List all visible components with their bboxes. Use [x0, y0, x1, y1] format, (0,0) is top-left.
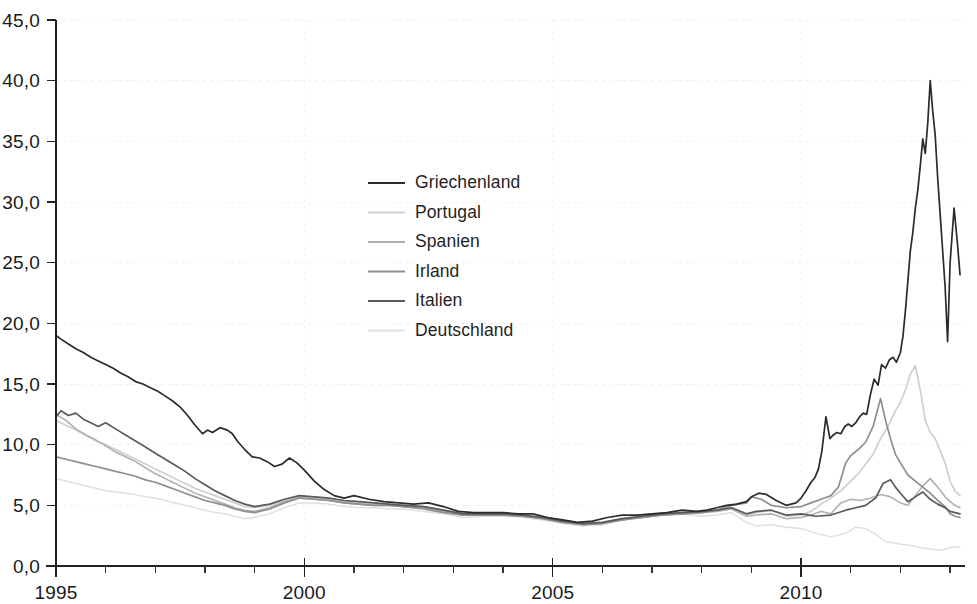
y-tick-label: 15,0	[2, 374, 40, 395]
y-tick-label: 25,0	[2, 252, 40, 273]
x-tick-label: 2010	[780, 582, 823, 603]
line-chart: 0,05,010,015,020,025,030,035,040,045,0 1…	[0, 0, 977, 604]
legend-label-deutschland: Deutschland	[415, 320, 513, 340]
legend-label-portugal: Portugal	[415, 202, 481, 222]
legend-label-griechenland: Griechenland	[415, 172, 520, 192]
y-tick-label: 20,0	[2, 313, 40, 334]
y-tick-label: 0,0	[13, 556, 40, 577]
x-tick-label: 1995	[34, 582, 77, 603]
y-tick-label: 30,0	[2, 192, 40, 213]
y-tick-label: 10,0	[2, 434, 40, 455]
y-tick-label: 40,0	[2, 70, 40, 91]
x-tick-label: 2005	[531, 582, 574, 603]
chart-container: 0,05,010,015,020,025,030,035,040,045,0 1…	[0, 0, 977, 604]
y-tick-label: 35,0	[2, 131, 40, 152]
y-tick-label: 45,0	[2, 10, 40, 31]
legend-label-italien: Italien	[415, 290, 462, 310]
legend-label-spanien: Spanien	[415, 231, 480, 251]
x-tick-label: 2000	[283, 582, 326, 603]
y-tick-label: 5,0	[13, 495, 40, 516]
legend-label-irland: Irland	[415, 261, 459, 281]
